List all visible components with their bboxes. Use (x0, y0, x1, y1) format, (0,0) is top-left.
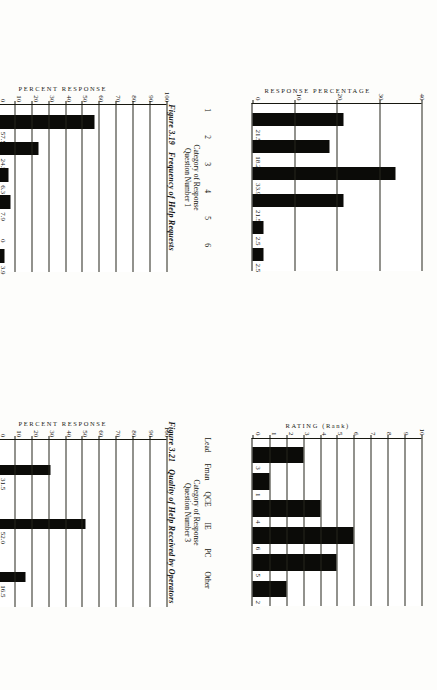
figure-3-22-y-axis-label: PERCENT RESPONSE (0, 418, 137, 427)
figure-3-19-x-axis-label-line2: Question Number 1 (182, 144, 191, 210)
x-tick-label: 6 (202, 232, 211, 259)
scanned-page: RESPONSE PERCENTAGE 403020100 21.518.233… (0, 0, 437, 690)
figure-3-21-x-axis-label-line1: Category of Response (191, 479, 200, 545)
y-tick-mark (132, 101, 133, 105)
bar-value-label: 1 (253, 493, 261, 497)
figure-3-19-plot-area: RESPONSE PERCENTAGE 403020100 21.518.233… (213, 85, 421, 271)
bar: 2.5 (252, 221, 263, 234)
y-tick-label: 10 (15, 95, 21, 102)
figure-grid: RESPONSE PERCENTAGE 403020100 21.518.233… (0, 0, 437, 690)
y-tick-mark (98, 101, 99, 105)
y-tick-label: 10 (15, 430, 21, 437)
bar-group: 24.5 (0, 137, 166, 160)
bar: 2.5 (252, 248, 263, 261)
gridline (132, 105, 133, 272)
gridline (337, 104, 338, 271)
gridline (303, 439, 304, 606)
figure-3-21-plot-area: RATING (Rank) 109876543210 314652 (213, 420, 421, 606)
y-tick-mark (48, 101, 49, 105)
y-tick-mark (149, 101, 150, 105)
y-tick-label: 1 (270, 432, 276, 436)
gridline (82, 105, 83, 272)
y-tick-mark (82, 436, 83, 440)
figure-3-19-x-tick-labels: 123456 (202, 94, 211, 262)
y-tick-mark (286, 435, 287, 439)
x-tick-label: 2 (202, 124, 211, 151)
bar: 16.5 (0, 572, 25, 582)
figure-3-22: PERCENT RESPONSE 1009080706050403020100 … (0, 345, 166, 680)
figure-3-21-x-tick-labels: LeadFmanQCEIEPCOther (202, 429, 211, 597)
gridline (65, 440, 66, 607)
figure-3-20-plot-box: 57.524.56.37.903.9 (0, 104, 166, 272)
bar: 21.5 (252, 194, 343, 207)
y-tick-mark (98, 436, 99, 440)
gridline (166, 105, 167, 272)
gridline (387, 439, 388, 606)
bar-group: 0 (0, 218, 166, 241)
y-tick-mark (65, 436, 66, 440)
y-tick-mark (353, 435, 354, 439)
gridline (320, 439, 321, 606)
bar: 52.0 (0, 519, 85, 529)
y-tick-mark (294, 100, 295, 104)
figure-3-22-bars: 31.552.016.5 (0, 440, 166, 607)
figure-3-19-y-tick-labels: 403020100 (251, 94, 421, 103)
figure-3-20-bars: 57.524.56.37.903.9 (0, 105, 166, 272)
figure-3-21-x-axis-label-line2: Question Number 3 (182, 479, 191, 545)
bar: 3 (252, 447, 303, 464)
gridline (370, 439, 371, 606)
bar-value-label: 0 (0, 239, 6, 243)
y-tick-mark (65, 101, 66, 105)
y-tick-mark (387, 435, 388, 439)
gridline (115, 440, 116, 607)
gridline (269, 439, 270, 606)
y-tick-label: 0 (0, 99, 5, 103)
bar: 3.9 (0, 249, 4, 263)
figure-3-21-y-tick-labels: 109876543210 (251, 429, 421, 438)
y-tick-mark (320, 435, 321, 439)
x-tick-label: 3 (202, 151, 211, 178)
y-tick-mark (252, 100, 253, 104)
bar-group: 7.9 (0, 191, 166, 214)
figure-3-20-y-axis-label: PERCENT RESPONSE (0, 83, 137, 92)
y-tick-label: 7 (369, 432, 375, 436)
x-tick-label: Other (202, 567, 211, 594)
y-tick-mark (379, 100, 380, 104)
gridline (404, 439, 405, 606)
gridline (421, 439, 422, 606)
y-tick-mark (421, 100, 422, 104)
bar-value-label: 16.5 (0, 585, 6, 597)
x-tick-label: IE (202, 513, 211, 540)
y-tick-mark (14, 436, 15, 440)
bar-value-label: 2 (253, 600, 261, 604)
figure-3-22-y-tick-labels: 1009080706050403020100 (0, 427, 166, 440)
y-tick-mark (82, 101, 83, 105)
figure-3-22-plot-area: PERCENT RESPONSE 1009080706050403020100 … (0, 418, 166, 608)
figure-3-22-plot-box: 31.552.016.5 (0, 439, 166, 607)
figure-3-21-x-axis-label: Category of Response Question Number 3 (182, 479, 200, 545)
figure-3-20-plot-area: PERCENT RESPONSE 1009080706050403020100 … (0, 83, 166, 273)
y-tick-mark (404, 435, 405, 439)
y-tick-mark (115, 101, 116, 105)
y-tick-mark (337, 100, 338, 104)
gridline (115, 105, 116, 272)
bar: 5 (252, 554, 337, 571)
gridline (98, 440, 99, 607)
bar-value-label: 6 (253, 547, 261, 551)
gridline (14, 105, 15, 272)
x-tick-label: 1 (202, 97, 211, 124)
gridline (48, 105, 49, 272)
gridline (65, 105, 66, 272)
figure-3-19-y-axis-label: RESPONSE PERCENTAGE (242, 85, 392, 94)
bar-value-label: 5 (253, 574, 261, 578)
gridline (286, 439, 287, 606)
y-tick-mark (14, 101, 15, 105)
y-tick-mark (166, 436, 167, 440)
y-tick-mark (252, 435, 253, 439)
gridline (31, 105, 32, 272)
bar: 33.9 (252, 167, 395, 180)
bar: 21.5 (252, 113, 343, 126)
y-tick-mark (303, 435, 304, 439)
gridline (48, 440, 49, 607)
bar: 7.9 (0, 195, 10, 209)
